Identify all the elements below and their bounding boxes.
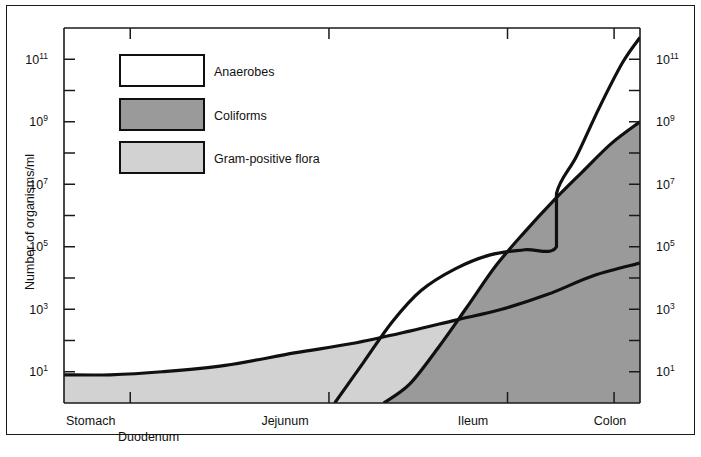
y-tick-label-left-9: 109 [29, 113, 48, 129]
chart-svg: 1011031051071091011 1011031051071091011 … [0, 0, 701, 457]
figure-container: 1011031051071091011 1011031051071091011 … [0, 0, 701, 457]
x-label-stomach: Stomach [66, 414, 115, 428]
x-label-colon: Colon [594, 414, 627, 428]
x-category-labels: Stomach Duodenum Jejunum Ileum Colon [66, 414, 626, 444]
y-tick-label-left-11: 1011 [25, 51, 48, 67]
y-tick-label-right-3: 103 [656, 301, 675, 317]
y-axis-title: Number of organisms/ml [23, 154, 37, 290]
y-axis-labels-right: 1011031051071091011 [656, 51, 679, 380]
legend-swatch-gram-positive [120, 142, 204, 173]
legend-label-gram-positive: Gram-positive flora [214, 152, 320, 166]
y-tick-label-left-3: 103 [29, 301, 48, 317]
legend-label-coliforms: Coliforms [214, 109, 267, 123]
x-label-jejunum: Jejunum [261, 414, 308, 428]
legend-swatch-anaerobes [120, 55, 204, 86]
y-tick-label-right-9: 109 [656, 113, 675, 129]
y-tick-label-right-1: 101 [656, 363, 675, 379]
y-tick-label-left-1: 101 [29, 363, 48, 379]
y-tick-label-right-7: 107 [656, 176, 675, 192]
x-label-ileum: Ileum [458, 414, 489, 428]
legend-swatch-coliforms [120, 99, 204, 130]
y-tick-label-right-5: 105 [656, 238, 675, 254]
legend-label-anaerobes: Anaerobes [214, 65, 274, 79]
y-tick-label-right-11: 1011 [656, 51, 679, 67]
x-label-duodenum: Duodenum [118, 430, 179, 444]
